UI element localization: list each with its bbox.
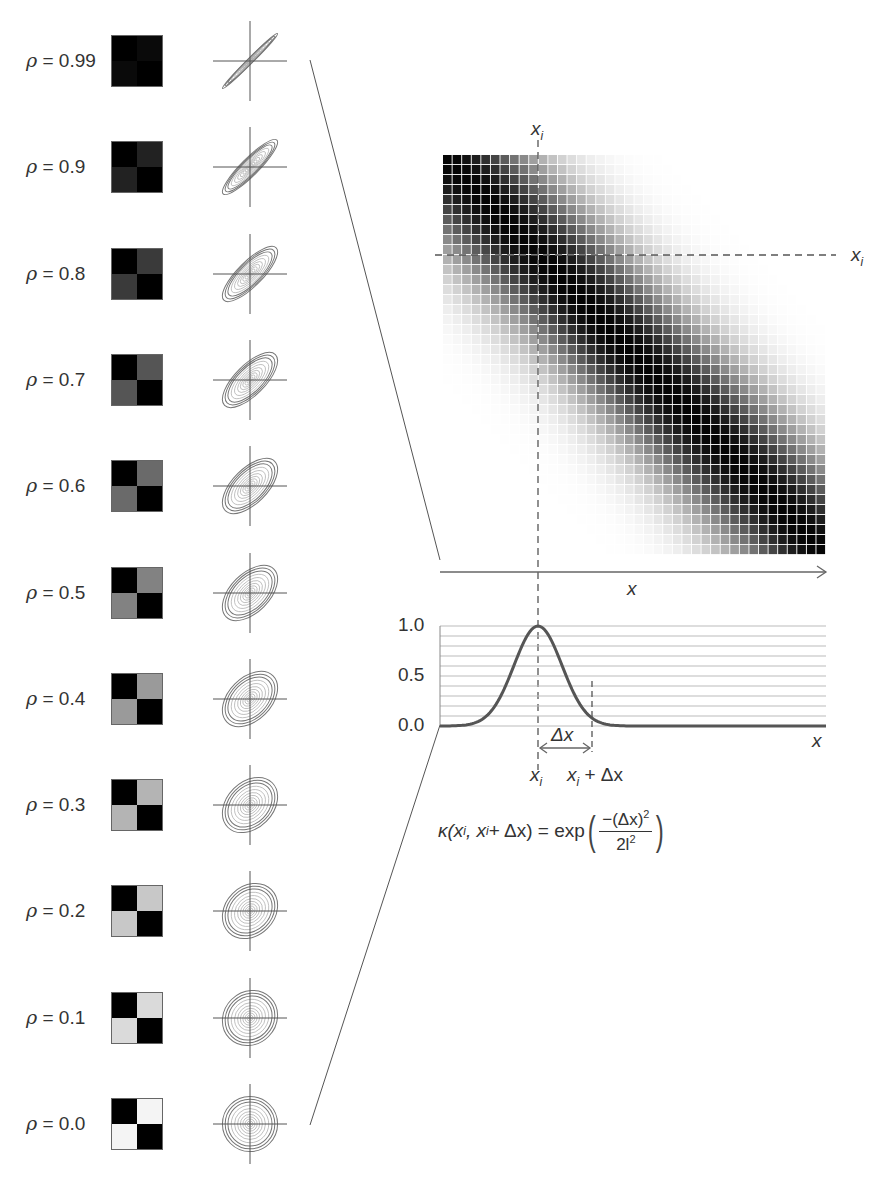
heatmap-cell xyxy=(797,375,806,384)
heatmap-cell xyxy=(749,155,758,164)
heatmap-cell xyxy=(807,415,816,424)
heatmap-cell xyxy=(816,345,825,354)
heatmap-cell xyxy=(730,225,739,234)
heatmap-cell xyxy=(577,285,586,294)
heatmap-cell xyxy=(797,475,806,484)
heatmap-cell xyxy=(711,325,720,334)
heatmap-cell xyxy=(769,535,778,544)
heatmap-cell xyxy=(539,545,548,554)
heatmap-cell xyxy=(730,375,739,384)
heatmap-cell xyxy=(711,495,720,504)
heatmap-cell xyxy=(577,175,586,184)
heatmap-cell xyxy=(816,395,825,404)
heatmap-cell xyxy=(769,375,778,384)
heatmap-cell xyxy=(510,365,519,374)
heatmap-cell xyxy=(654,495,663,504)
heatmap-cell xyxy=(816,325,825,334)
heatmap-cell xyxy=(606,535,615,544)
heatmap-cell xyxy=(759,215,768,224)
heatmap-cell xyxy=(673,545,682,554)
heatmap-cell xyxy=(443,265,452,274)
heatmap-cell xyxy=(749,365,758,374)
heatmap-cell xyxy=(778,175,787,184)
heatmap-cell xyxy=(520,505,529,514)
heatmap-cell xyxy=(778,315,787,324)
heatmap-cell xyxy=(491,485,500,494)
heatmap-cell xyxy=(539,365,548,374)
heatmap-cell xyxy=(510,155,519,164)
heatmap-cell xyxy=(625,265,634,274)
heatmap-cell xyxy=(529,275,538,284)
heatmap-cell xyxy=(740,205,749,214)
heatmap-cell xyxy=(788,315,797,324)
heatmap-cell xyxy=(682,235,691,244)
heatmap-cell xyxy=(577,325,586,334)
heatmap-cell xyxy=(520,235,529,244)
heatmap-cell xyxy=(567,405,576,414)
heatmap-cell xyxy=(596,505,605,514)
heatmap-cell xyxy=(692,475,701,484)
heatmap-cell xyxy=(644,315,653,324)
heatmap-cell xyxy=(587,485,596,494)
heatmap-cell xyxy=(654,535,663,544)
heatmap-cell xyxy=(453,195,462,204)
formula-lhs: κ(x xyxy=(438,820,463,842)
heatmap-cell xyxy=(443,365,452,374)
heatmap-cell xyxy=(778,435,787,444)
heatmap-cell xyxy=(778,455,787,464)
heatmap-cell xyxy=(472,545,481,554)
heatmap-cell xyxy=(596,305,605,314)
heatmap-cell xyxy=(520,415,529,424)
heatmap-cell xyxy=(644,385,653,394)
heatmap-cell xyxy=(702,375,711,384)
heatmap-cell xyxy=(596,205,605,214)
heatmap-cell xyxy=(558,355,567,364)
heatmap-cell xyxy=(730,215,739,224)
heatmap-cell xyxy=(500,435,509,444)
heatmap-cell xyxy=(606,405,615,414)
heatmap-cell xyxy=(615,485,624,494)
heatmap-cell xyxy=(481,525,490,534)
numerator-text: −(Δx) xyxy=(602,810,643,829)
heatmap-cell xyxy=(596,385,605,394)
heatmap-cell xyxy=(577,455,586,464)
heatmap-cell xyxy=(548,455,557,464)
heatmap-cell xyxy=(491,455,500,464)
heatmap-cell xyxy=(797,265,806,274)
heatmap-cell xyxy=(635,345,644,354)
heatmap-cell xyxy=(769,335,778,344)
heatmap-cell xyxy=(778,415,787,424)
heatmap-cell xyxy=(596,275,605,284)
heatmap-cell xyxy=(644,465,653,474)
heatmap-cell xyxy=(797,205,806,214)
heatmap-cell xyxy=(491,495,500,504)
heatmap-cell xyxy=(606,375,615,384)
heatmap-cell xyxy=(816,175,825,184)
heatmap-cell xyxy=(539,435,548,444)
heatmap-cell xyxy=(730,275,739,284)
heatmap-cell xyxy=(548,415,557,424)
heatmap-cell xyxy=(596,195,605,204)
heatmap-cell xyxy=(529,255,538,264)
heatmap-cell xyxy=(816,235,825,244)
heatmap-cell xyxy=(472,345,481,354)
heatmap-cell xyxy=(807,325,816,334)
heatmap-cell xyxy=(721,365,730,374)
heatmap-cell xyxy=(510,395,519,404)
heatmap-cell xyxy=(797,165,806,174)
heatmap-cell xyxy=(644,305,653,314)
heatmap-cell xyxy=(673,345,682,354)
heatmap-cell xyxy=(472,175,481,184)
heatmap-cell xyxy=(644,245,653,254)
heatmap-cell xyxy=(453,225,462,234)
heatmap-cell xyxy=(644,405,653,414)
heatmap-cell xyxy=(529,215,538,224)
heatmap-cell xyxy=(443,485,452,494)
heatmap-cell xyxy=(663,165,672,174)
heatmap-cell xyxy=(711,215,720,224)
heatmap-cell xyxy=(740,285,749,294)
heatmap-cell xyxy=(510,405,519,414)
heatmap-cell xyxy=(692,355,701,364)
heatmap-cell xyxy=(453,405,462,414)
heatmap-cell xyxy=(759,395,768,404)
